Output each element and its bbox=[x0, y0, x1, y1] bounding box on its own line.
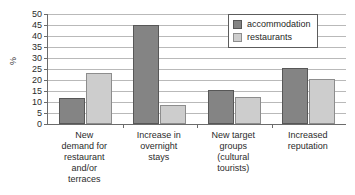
x-axis-separator bbox=[272, 124, 273, 128]
y-tick-label: 0 bbox=[37, 120, 42, 129]
x-axis-label-0: Newdemand forrestaurantand/orterraces bbox=[47, 130, 122, 185]
y-tick-label: 30 bbox=[32, 54, 42, 63]
y-tick-label: 45 bbox=[32, 21, 42, 30]
bar-1-1 bbox=[160, 105, 186, 124]
y-tick-label: 40 bbox=[32, 32, 42, 41]
bar-0-2 bbox=[208, 90, 234, 124]
y-tick-label: 15 bbox=[32, 87, 42, 96]
x-axis-label-1: Increase inovernightstays bbox=[122, 130, 197, 163]
x-axis-label-line: Increased bbox=[271, 130, 346, 141]
x-axis-label-line: groups bbox=[196, 141, 271, 152]
chart-legend: accommodationrestaurants bbox=[228, 14, 318, 48]
y-tick-label: 35 bbox=[32, 43, 42, 52]
x-axis-label-line: and/or bbox=[47, 163, 122, 174]
x-axis-label-line: overnight bbox=[122, 141, 197, 152]
x-axis-separator bbox=[197, 124, 198, 128]
y-tick-label: 50 bbox=[32, 10, 42, 19]
x-axis-label-line: restaurant bbox=[47, 152, 122, 163]
bar-0-0 bbox=[59, 98, 85, 124]
x-axis-label-line: Increase in bbox=[122, 130, 197, 141]
x-axis-label-line: reputation bbox=[271, 141, 346, 152]
x-axis-label-line: New target bbox=[196, 130, 271, 141]
legend-label: restaurants bbox=[247, 33, 292, 42]
x-axis-labels: Newdemand forrestaurantand/orterracesInc… bbox=[47, 130, 345, 192]
y-tick-label: 20 bbox=[32, 76, 42, 85]
y-tick-label: 10 bbox=[32, 98, 42, 107]
y-tick-mark bbox=[44, 124, 48, 125]
restaurants-swatch-icon bbox=[233, 33, 242, 42]
legend-item-accommodation: accommodation bbox=[233, 18, 311, 31]
y-tick-label: 5 bbox=[37, 109, 42, 118]
y-axis-title: % bbox=[8, 50, 18, 72]
x-axis-label-2: New targetgroups(culturaltourists) bbox=[196, 130, 271, 174]
bar-1-0 bbox=[86, 73, 112, 124]
accommodation-swatch-icon bbox=[233, 20, 242, 29]
x-axis-label-line: New bbox=[47, 130, 122, 141]
legend-item-restaurants: restaurants bbox=[233, 31, 311, 44]
x-axis-label-line: terraces bbox=[47, 174, 122, 185]
x-axis-label-line: demand for bbox=[47, 141, 122, 152]
x-axis-separator bbox=[123, 124, 124, 128]
bar-0-3 bbox=[282, 68, 308, 124]
bar-0-1 bbox=[133, 25, 159, 124]
x-axis-label-3: Increasedreputation bbox=[271, 130, 346, 152]
legend-label: accommodation bbox=[247, 20, 311, 29]
bar-1-3 bbox=[309, 79, 335, 124]
bar-1-2 bbox=[235, 97, 261, 125]
x-axis-label-line: stays bbox=[122, 152, 197, 163]
x-axis-label-line: (cultural bbox=[196, 152, 271, 163]
y-tick-label: 25 bbox=[32, 65, 42, 74]
bar-chart: % 50454035302520151050 Newdemand forrest… bbox=[0, 0, 355, 195]
x-axis-label-line: tourists) bbox=[196, 163, 271, 174]
